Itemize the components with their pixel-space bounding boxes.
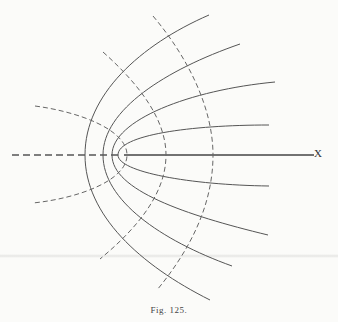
confocal-parabolas-diagram [0, 0, 338, 322]
solid-parabola-third [112, 82, 275, 235]
dashed-parabola-outer [153, 16, 213, 290]
x-axis-label: X [314, 147, 322, 159]
figure-caption: Fig. 125. [0, 305, 338, 315]
solid-parabola-outer [85, 15, 210, 300]
